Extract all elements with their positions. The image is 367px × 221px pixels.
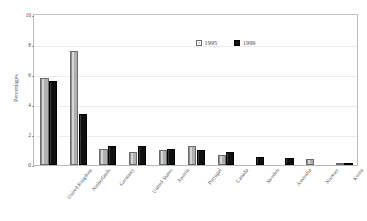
bar-1995-canada (218, 155, 226, 166)
chart-legend: 1995 1999 (196, 37, 256, 48)
legend-entry-1999: 1999 (234, 39, 255, 46)
y-axis-tickmark (32, 46, 34, 47)
x-axis-label-text: United States (151, 167, 174, 194)
x-axis-label-text: United Kingdom (65, 167, 93, 200)
bar-1995-korea (336, 163, 344, 165)
x-axis-label-text: Korea (351, 167, 364, 181)
x-axis-label-united-kingdom: United Kingdom (65, 167, 93, 200)
x-axis-label-australia: Australia (295, 167, 312, 187)
bar-1999-united-kingdom (49, 81, 57, 165)
bar-1995-united-kingdom (40, 78, 48, 165)
y-axis-tickmark (32, 136, 34, 137)
bar-1999-united-states (138, 146, 146, 165)
x-axis-label-korea: Korea (351, 167, 364, 181)
bar-chart: Percentages 0246810 1995 1999 United Kin… (0, 0, 367, 221)
x-axis-label-text: Austria (175, 167, 190, 184)
bar-group (40, 15, 57, 165)
x-axis-label-text: Sweden (264, 167, 280, 184)
x-axis-label-text: Norway (324, 167, 340, 185)
bar-1995-austria (159, 150, 167, 165)
bar-1995-norway (306, 159, 314, 165)
x-axis-label-text: Australia (295, 167, 312, 187)
x-axis-label-united-states: United States (151, 167, 174, 194)
bar-1999-germany (108, 146, 116, 166)
bar-group (70, 15, 87, 165)
y-axis-tick-8: 8 (19, 42, 31, 48)
x-axis-label-netherlands: Netherlands (91, 167, 112, 192)
bar-1999-sweden (256, 157, 264, 165)
x-axis-label-text: Portugal (206, 167, 222, 186)
y-axis-tickmark (32, 106, 34, 107)
x-axis-label-canada: Canada (234, 167, 249, 184)
x-axis-label-norway: Norway (324, 167, 340, 185)
x-axis-label-austria: Austria (175, 167, 190, 184)
bar-1995-portugal (188, 146, 196, 166)
x-axis-label-text: Germany (118, 167, 135, 187)
x-axis-label-sweden: Sweden (264, 167, 280, 184)
y-axis-tick-labels: 0246810 (14, 0, 31, 221)
y-axis-tick-10: 10 (19, 12, 31, 18)
y-axis-tick-6: 6 (19, 72, 31, 78)
bar-1999-canada (226, 152, 234, 165)
legend-label-1995: 1995 (205, 39, 218, 46)
bar-1999-korea (344, 163, 352, 165)
y-axis-tickmark (32, 76, 34, 77)
x-axis-category-labels: United KingdomNetherlandsGermanyUnited S… (33, 167, 358, 221)
x-axis-label-text: Netherlands (91, 167, 112, 192)
y-axis-tick-4: 4 (19, 102, 31, 108)
x-axis-label-text: Canada (234, 167, 249, 184)
y-axis-tickmark (32, 16, 34, 17)
bar-1995-united-states (129, 152, 137, 165)
x-axis-label-germany: Germany (118, 167, 135, 187)
y-axis-tick-2: 2 (19, 132, 31, 138)
y-axis-tick-0: 0 (19, 162, 31, 168)
bar-1999-netherlands (79, 114, 87, 165)
bar-group (306, 15, 323, 165)
bar-group (336, 15, 353, 165)
bar-group (277, 15, 294, 165)
bar-1999-austria (167, 149, 175, 165)
legend-label-1999: 1999 (243, 39, 256, 46)
bar-group (129, 15, 146, 165)
bar-1995-germany (99, 149, 107, 166)
legend-swatch-1995-icon (196, 40, 202, 46)
x-axis-label-portugal: Portugal (206, 167, 222, 186)
bar-1999-portugal (197, 150, 205, 165)
legend-entry-1995: 1995 (196, 39, 217, 46)
bar-1999-australia (285, 158, 293, 165)
bar-group (159, 15, 176, 165)
bar-1995-netherlands (70, 51, 78, 165)
legend-swatch-1999-icon (234, 40, 240, 46)
bar-group (99, 15, 116, 165)
